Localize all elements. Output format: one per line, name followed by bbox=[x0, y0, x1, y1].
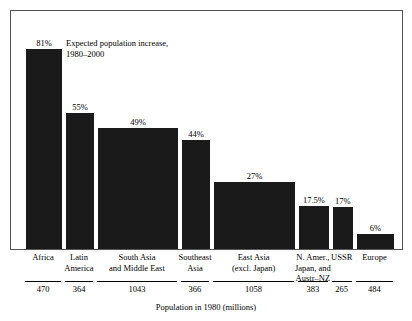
plot-area: 81%55%49%44%27%17.5%17%6% Expected popul… bbox=[10, 10, 403, 250]
population-value: 484 bbox=[356, 282, 393, 295]
bar bbox=[98, 128, 178, 249]
bar-value-label: 17% bbox=[321, 196, 365, 206]
bar bbox=[26, 49, 62, 249]
population-value-group: 484 bbox=[356, 281, 393, 295]
bar-value-label: 55% bbox=[54, 102, 106, 112]
population-value: 1043 bbox=[97, 282, 177, 295]
category-label: Europe bbox=[346, 252, 403, 263]
population-value: 470 bbox=[25, 282, 61, 295]
population-value: 1058 bbox=[213, 282, 294, 295]
population-value-group: 470 bbox=[25, 281, 61, 295]
population-value-group: 364 bbox=[65, 281, 93, 295]
bar bbox=[299, 206, 328, 249]
chart-annotation: Expected population increase, 1980–2000 bbox=[66, 38, 168, 60]
bar bbox=[66, 113, 94, 249]
population-value-group: 1043 bbox=[97, 281, 177, 295]
category-label-line: Japan, and bbox=[288, 263, 337, 274]
population-value-group: 1058 bbox=[213, 281, 294, 295]
x-axis-label: Population in 1980 (millions) bbox=[0, 302, 412, 312]
population-value-group: 265 bbox=[332, 281, 352, 295]
bar bbox=[214, 182, 295, 249]
chart-figure: 81%55%49%44%27%17.5%17%6% Expected popul… bbox=[0, 0, 412, 321]
bar bbox=[357, 234, 394, 249]
population-value-group: 383 bbox=[298, 281, 327, 295]
bar bbox=[182, 140, 210, 249]
bar-value-label: 6% bbox=[345, 223, 406, 233]
population-value-group: 366 bbox=[181, 281, 209, 295]
population-values: 47036410433661058383265484 bbox=[10, 281, 403, 301]
bar-value-label: 27% bbox=[202, 171, 307, 181]
bar-value-label: 44% bbox=[170, 129, 222, 139]
population-value: 383 bbox=[298, 282, 327, 295]
annotation-line-1: Expected population increase, bbox=[66, 38, 168, 49]
category-label-line: Europe bbox=[346, 252, 403, 263]
population-value: 265 bbox=[332, 282, 352, 295]
annotation-line-2: 1980–2000 bbox=[66, 49, 168, 60]
population-value: 364 bbox=[65, 282, 93, 295]
bar-value-label: 49% bbox=[86, 117, 190, 127]
population-value: 366 bbox=[181, 282, 209, 295]
